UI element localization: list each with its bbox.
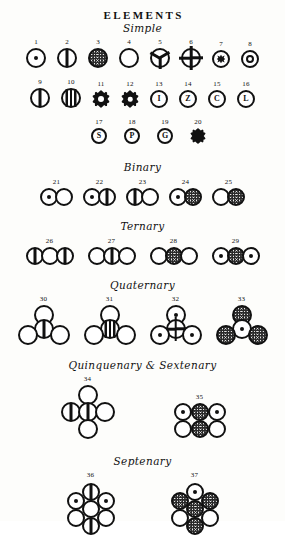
compound-symbol-24[interactable]: 24 [169, 178, 202, 206]
compound-symbol-35[interactable]: 35 [174, 393, 226, 439]
atom-cluster-pyramid [82, 305, 138, 343]
atom-circle-open [84, 325, 104, 345]
atom-cluster-hexagon [169, 481, 221, 537]
compound-number: 29 [232, 237, 239, 245]
element-symbol-6[interactable]: 6 [181, 38, 201, 68]
element-symbol-2[interactable]: 2 [57, 38, 77, 68]
compound-number: 27 [108, 237, 115, 245]
compound-number: 35 [196, 393, 203, 401]
element-symbol-15[interactable]: 15 C [208, 80, 226, 108]
quaternary-row: 30 31 32 [0, 295, 285, 343]
atom-group [150, 247, 198, 265]
y-spokes-icon [150, 48, 170, 68]
atom-group [40, 188, 73, 206]
element-number: 4 [127, 38, 131, 46]
compound-symbol-32[interactable]: 32 [148, 295, 204, 343]
element-symbol-18[interactable]: 18 P [124, 118, 140, 144]
compound-symbol-22[interactable]: 22 [83, 178, 116, 206]
section-title-quaternary: Quaternary [0, 279, 285, 291]
atom-circle-open [95, 402, 115, 422]
compound-symbol-31[interactable]: 31 [82, 295, 138, 343]
atom-circle-letter: S [91, 128, 107, 144]
element-symbol-17[interactable]: 17 S [91, 118, 107, 144]
compound-symbol-37[interactable]: 37 [169, 471, 221, 537]
atom-circle-letter: Z [179, 90, 197, 108]
compound-number: 24 [182, 178, 189, 186]
compound-number: 23 [139, 178, 146, 186]
compound-symbol-23[interactable]: 23 [126, 178, 159, 206]
compound-symbol-25[interactable]: 25 [212, 178, 245, 206]
element-symbol-14[interactable]: 14 Z [179, 80, 197, 108]
element-symbol-1[interactable]: 1 [26, 38, 46, 68]
element-symbol-12[interactable]: 12 [121, 80, 139, 108]
element-number: 19 [161, 118, 168, 126]
page-title: ELEMENTS [0, 9, 285, 21]
atom-circle-y-spokes [150, 48, 170, 68]
compound-symbol-33[interactable]: 33 [214, 295, 270, 343]
element-symbol-5[interactable]: 5 [150, 38, 170, 68]
compound-number: 32 [172, 295, 179, 303]
atom-group [88, 247, 136, 265]
element-symbol-8[interactable]: 8 [241, 40, 259, 68]
compound-symbol-29[interactable]: 29 [212, 237, 260, 265]
atom-cluster-grid [174, 403, 226, 439]
element-symbol-3[interactable]: 3 [88, 38, 108, 68]
atom-circle-dot [182, 325, 202, 345]
atom-circle-letter: I [150, 90, 168, 108]
atom-circle-open [208, 420, 226, 438]
section-title-quinquenary: Quinquenary & Sextenary [0, 359, 285, 371]
element-symbol-7[interactable]: 7 [212, 40, 230, 68]
element-symbol-10[interactable]: 10 [61, 78, 81, 108]
compound-symbol-36[interactable]: 36 [65, 471, 117, 537]
atom-circle-stippled [216, 325, 236, 345]
atom-group [212, 188, 245, 206]
compound-symbol-34[interactable]: 34 [60, 375, 116, 439]
atom-circle-stippled [88, 48, 108, 68]
cross-spokes-icon [181, 48, 201, 68]
ternary-row: 26 27 28 29 [0, 237, 285, 265]
element-number: 12 [126, 80, 133, 88]
element-number: 6 [189, 38, 193, 46]
atom-circle-stippled [227, 188, 245, 206]
atom-circle-ring [241, 50, 259, 68]
compound-number: 36 [87, 471, 94, 479]
atom-circle-bar [98, 188, 116, 206]
inner-ring-icon [246, 55, 254, 63]
element-symbol-9[interactable]: 9 [30, 78, 50, 108]
compound-number: 33 [238, 295, 245, 303]
clover-center-hole [98, 96, 104, 102]
atom-circle-dot [208, 403, 226, 421]
element-number: 1 [34, 38, 38, 46]
clover-center-hole [128, 97, 133, 102]
element-symbol-16[interactable]: 16 L [237, 80, 255, 108]
atom-circle-open [180, 247, 198, 265]
compound-symbol-30[interactable]: 30 [16, 295, 72, 343]
element-symbol-19[interactable]: 19 G [157, 118, 173, 144]
compound-symbol-21[interactable]: 21 [40, 178, 73, 206]
compound-symbol-27[interactable]: 27 [88, 237, 136, 265]
atom-cluster-plus [60, 385, 116, 439]
atom-circle-open [174, 420, 192, 438]
element-number: 17 [95, 118, 102, 126]
element-symbol-20[interactable]: 20 [190, 118, 206, 144]
atom-cluster-pyramid [214, 305, 270, 343]
atom-circle-stippled [184, 188, 202, 206]
element-number: 11 [97, 80, 104, 88]
element-symbol-11[interactable]: 11 [92, 80, 110, 108]
element-symbol-4[interactable]: 4 [119, 38, 139, 68]
compound-symbol-26[interactable]: 26 [26, 237, 74, 265]
element-symbol-13[interactable]: 13 I [150, 80, 168, 108]
compound-number: 34 [84, 375, 91, 383]
atom-circle-open [50, 325, 70, 345]
atom-circle-bar [56, 247, 74, 265]
atom-circle-letter: L [237, 90, 255, 108]
element-number: 2 [65, 38, 69, 46]
atom-group [26, 247, 74, 265]
compound-number: 21 [53, 178, 60, 186]
compound-symbol-28[interactable]: 28 [150, 237, 198, 265]
atom-circle-stippled [191, 420, 209, 438]
atom-circle-letter: C [208, 90, 226, 108]
septenary-row: 36 37 [0, 471, 285, 537]
quinquenary-row: 34 35 [0, 375, 285, 439]
